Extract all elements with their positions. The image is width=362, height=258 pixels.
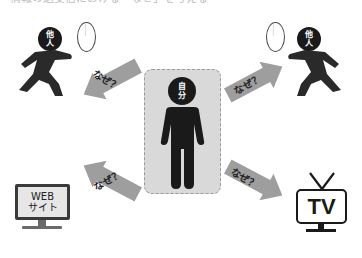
self-label-2: 分	[178, 91, 186, 100]
tv-antenna-icon	[306, 171, 338, 191]
self-label-1: 自	[178, 82, 186, 91]
monitor-base-icon	[22, 226, 62, 229]
other-left-label-1: 他	[46, 30, 54, 39]
speech-text-left: ……	[83, 24, 89, 36]
other-left-label-2: 人	[46, 39, 54, 48]
tv-label: TV	[307, 194, 335, 220]
tv-base-icon	[306, 229, 336, 232]
website-label-1: WEB	[31, 191, 54, 202]
caption-clipped: 情報の送受信における「なぜ」を考える	[10, 0, 225, 4]
tv-screen: TV	[296, 189, 347, 224]
other-right-label-1: 他	[305, 30, 313, 39]
other-head-left: 他 人	[38, 27, 62, 51]
website-monitor: WEB サイト	[15, 184, 70, 220]
website-label-2: サイト	[28, 202, 58, 213]
speech-text-right: ……	[271, 24, 277, 36]
other-head-right: 他 人	[297, 27, 321, 51]
other-right-label-2: 人	[305, 39, 313, 48]
self-head: 自 分	[168, 77, 196, 105]
